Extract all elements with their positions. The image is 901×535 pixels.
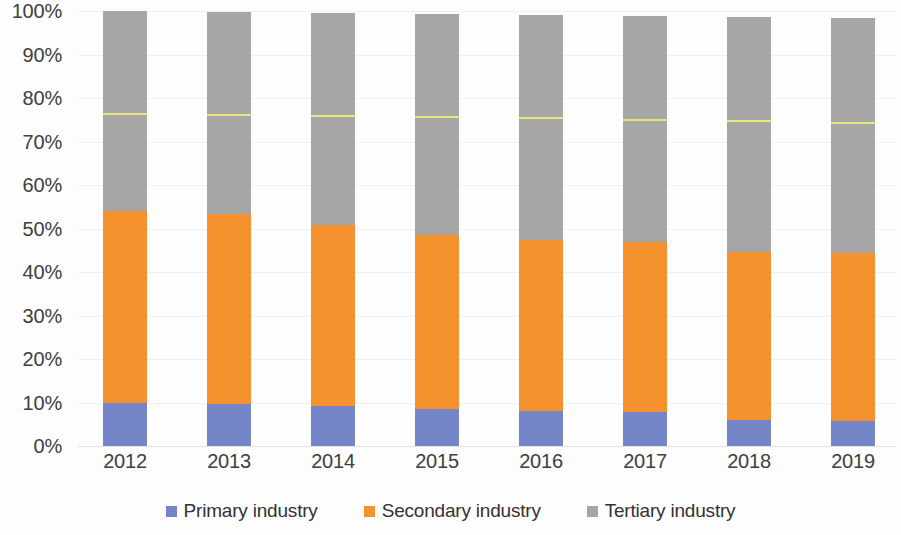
legend-swatch-icon xyxy=(364,506,375,517)
bar-segment-tertiary[interactable] xyxy=(623,16,667,242)
gridline-20 xyxy=(78,359,896,360)
y-axis-tick-label: 100% xyxy=(12,0,62,23)
x-axis-tick-label: 2014 xyxy=(311,450,355,473)
stacked-bar[interactable] xyxy=(415,14,459,446)
reference-line-marker xyxy=(415,116,459,118)
y-axis-tick-label: 40% xyxy=(23,261,62,284)
bar-segment-primary[interactable] xyxy=(415,409,459,446)
gridline-30 xyxy=(78,316,896,317)
gridline-70 xyxy=(78,142,896,143)
gridline-0 xyxy=(78,446,896,447)
y-axis-tick-label: 20% xyxy=(23,348,62,371)
bar-group[interactable] xyxy=(311,11,355,446)
reference-line-marker xyxy=(727,120,771,122)
gridline-80 xyxy=(78,98,896,99)
legend-item-label: Primary industry xyxy=(184,500,318,522)
legend-swatch-icon xyxy=(166,506,177,517)
reference-line-marker xyxy=(623,119,667,121)
y-axis-tick-label: 30% xyxy=(23,304,62,327)
x-axis-tick-label: 2019 xyxy=(831,450,875,473)
reference-line-marker xyxy=(103,113,147,115)
stacked-bar[interactable] xyxy=(623,16,667,446)
plot-area xyxy=(78,11,896,446)
gridline-50 xyxy=(78,229,896,230)
y-axis-tick-label: 90% xyxy=(23,43,62,66)
bar-segment-primary[interactable] xyxy=(727,420,771,446)
bar-segment-secondary[interactable] xyxy=(831,253,875,421)
stacked-bar-chart: 100%90%80%70%60%50%40%30%20%10%0% 201220… xyxy=(0,0,901,535)
legend-item[interactable]: Primary industry xyxy=(166,500,318,522)
bar-segment-tertiary[interactable] xyxy=(727,17,771,252)
bar-segment-primary[interactable] xyxy=(831,421,875,446)
legend-swatch-icon xyxy=(587,506,598,517)
stacked-bar[interactable] xyxy=(207,12,251,446)
stacked-bar[interactable] xyxy=(831,18,875,446)
reference-line-marker xyxy=(311,115,355,117)
bar-segment-primary[interactable] xyxy=(519,411,563,446)
gridline-10 xyxy=(78,403,896,404)
y-axis-tick-label: 10% xyxy=(23,391,62,414)
bar-group[interactable] xyxy=(727,11,771,446)
bar-segment-secondary[interactable] xyxy=(623,242,667,412)
legend-item-label: Tertiary industry xyxy=(605,500,736,522)
x-axis-tick-label: 2012 xyxy=(103,450,147,473)
bar-segment-secondary[interactable] xyxy=(519,240,563,411)
chart-legend: Primary industrySecondary industryTertia… xyxy=(0,500,901,522)
gridline-90 xyxy=(78,55,896,56)
y-axis-tick-label: 50% xyxy=(23,217,62,240)
bar-segment-primary[interactable] xyxy=(623,412,667,446)
gridline-60 xyxy=(78,185,896,186)
stacked-bar[interactable] xyxy=(727,17,771,446)
bar-segment-secondary[interactable] xyxy=(103,211,147,403)
x-axis: 20122013201420152016201720182019 xyxy=(78,450,896,484)
bar-segment-tertiary[interactable] xyxy=(519,15,563,239)
bar-segment-tertiary[interactable] xyxy=(831,18,875,253)
bar-segment-primary[interactable] xyxy=(311,406,355,446)
y-axis-tick-label: 0% xyxy=(33,435,62,458)
reference-line-marker xyxy=(207,114,251,116)
bar-segment-primary[interactable] xyxy=(207,404,251,446)
bar-group[interactable] xyxy=(207,11,251,446)
bar-group[interactable] xyxy=(519,11,563,446)
gridline-40 xyxy=(78,272,896,273)
stacked-bar[interactable] xyxy=(519,15,563,446)
bar-segment-tertiary[interactable] xyxy=(311,13,355,225)
bar-segment-tertiary[interactable] xyxy=(103,11,147,211)
y-axis-tick-label: 60% xyxy=(23,174,62,197)
y-axis-tick-label: 80% xyxy=(23,87,62,110)
bar-segment-secondary[interactable] xyxy=(727,252,771,420)
x-axis-tick-label: 2018 xyxy=(727,450,771,473)
legend-item[interactable]: Secondary industry xyxy=(364,500,541,522)
legend-item[interactable]: Tertiary industry xyxy=(587,500,736,522)
bar-segment-secondary[interactable] xyxy=(311,225,355,406)
reference-line-marker xyxy=(519,117,563,119)
stacked-bar[interactable] xyxy=(311,13,355,446)
bar-segment-primary[interactable] xyxy=(103,403,147,446)
bar-segment-secondary[interactable] xyxy=(207,214,251,404)
bar-group[interactable] xyxy=(103,11,147,446)
y-axis-tick-label: 70% xyxy=(23,130,62,153)
x-axis-tick-label: 2017 xyxy=(623,450,667,473)
stacked-bar[interactable] xyxy=(103,11,147,446)
y-axis: 100%90%80%70%60%50%40%30%20%10%0% xyxy=(0,11,70,446)
bar-group[interactable] xyxy=(415,11,459,446)
bar-segment-tertiary[interactable] xyxy=(415,14,459,235)
x-axis-tick-label: 2016 xyxy=(519,450,563,473)
x-axis-tick-label: 2013 xyxy=(207,450,251,473)
bar-group[interactable] xyxy=(831,11,875,446)
legend-item-label: Secondary industry xyxy=(382,500,541,522)
x-axis-tick-label: 2015 xyxy=(415,450,459,473)
reference-line-marker xyxy=(831,122,875,124)
gridline-100 xyxy=(78,11,896,12)
bar-group[interactable] xyxy=(623,11,667,446)
bar-segment-secondary[interactable] xyxy=(415,235,459,409)
